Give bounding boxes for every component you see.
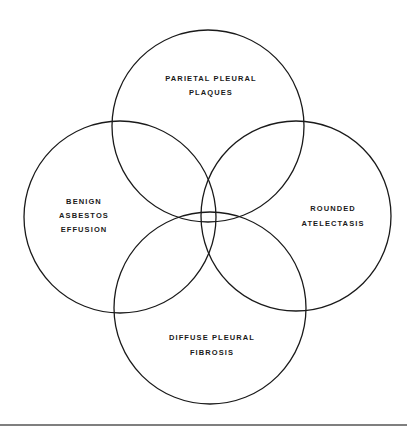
circle-benign-asbestos-effusion (24, 121, 216, 313)
label-benign-asbestos-effusion-line-3: EFFUSION (61, 225, 108, 234)
label-rounded-atelectasis-line-2: ATELECTASIS (301, 219, 364, 228)
venn-diagram: PARIETAL PLEURALPLAQUESBENIGNASBESTOSEFF… (0, 0, 414, 430)
circle-parietal-pleural-plaques (112, 30, 304, 222)
label-parietal-pleural-plaques-line-1: PARIETAL PLEURAL (165, 74, 256, 83)
label-benign-asbestos-effusion-line-1: BENIGN (66, 197, 102, 206)
label-diffuse-pleural-fibrosis-line-2: FIBROSIS (190, 348, 234, 357)
label-benign-asbestos-effusion-line-2: ASBESTOS (59, 211, 109, 220)
label-diffuse-pleural-fibrosis-line-1: DIFFUSE PLEURAL (169, 333, 255, 342)
circle-rounded-atelectasis (201, 121, 391, 311)
label-parietal-pleural-plaques-line-2: PLAQUES (189, 88, 233, 97)
labels-layer: PARIETAL PLEURALPLAQUESBENIGNASBESTOSEFF… (59, 74, 365, 357)
label-rounded-atelectasis-line-1: ROUNDED (310, 204, 356, 213)
circle-diffuse-pleural-fibrosis (114, 212, 306, 404)
